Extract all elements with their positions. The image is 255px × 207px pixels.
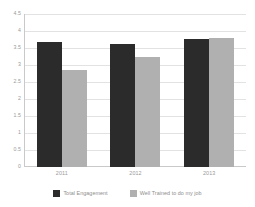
bar (184, 39, 209, 167)
bar (135, 57, 160, 168)
x-axis-tick-label: 2011 (25, 170, 99, 176)
bar (209, 38, 234, 167)
x-axis-labels: 201120122013 (25, 170, 246, 180)
y-axis-labels: 4.543.532.521.510.50 (0, 14, 21, 167)
y-axis-tick-label: 0 (0, 164, 21, 169)
y-axis-tick-label: 1.5 (0, 113, 21, 118)
bar-group (99, 14, 173, 167)
y-axis-tick-label: 4.5 (0, 11, 21, 16)
bars-layer (25, 14, 246, 167)
y-axis-tick-label: 3 (0, 62, 21, 67)
bar (37, 42, 62, 167)
x-axis-tick-label: 2013 (172, 170, 246, 176)
y-axis-tick-label: 4 (0, 28, 21, 33)
bar-chart: 4.543.532.521.510.50 201120122013 Total … (0, 0, 255, 207)
chart-legend: Total EngagementWell Trained to do my jo… (0, 186, 255, 200)
legend-item[interactable]: Well Trained to do my job (130, 190, 202, 197)
bar-group (25, 14, 99, 167)
x-axis-tick-label: 2012 (99, 170, 173, 176)
legend-swatch-icon (130, 190, 137, 197)
bar (62, 70, 87, 167)
legend-swatch-icon (53, 190, 60, 197)
y-axis-tick-label: 0.5 (0, 147, 21, 152)
bar (110, 44, 135, 167)
y-axis-tick-label: 1 (0, 130, 21, 135)
y-axis-tick-label: 3.5 (0, 45, 21, 50)
legend-item-label: Well Trained to do my job (140, 190, 202, 196)
y-axis-tick-label: 2.5 (0, 79, 21, 84)
bar-group (172, 14, 246, 167)
legend-item-label: Total Engagement (63, 190, 107, 196)
y-axis-tick-label: 2 (0, 96, 21, 101)
legend-item[interactable]: Total Engagement (53, 190, 107, 197)
